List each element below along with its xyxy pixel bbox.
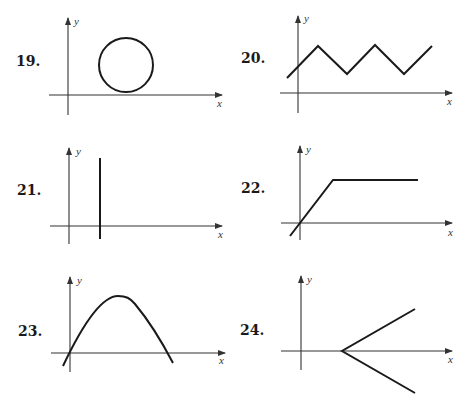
y-axis-label: y: [305, 143, 311, 155]
figure-number: 24.: [240, 322, 264, 338]
x-axis-label: x: [216, 97, 222, 109]
arch-curve: [63, 296, 173, 366]
figure-number: 20.: [241, 50, 265, 66]
figure-24: 24. y x: [240, 273, 453, 393]
figure-22: 22. y x: [241, 143, 453, 240]
x-axis-label: x: [218, 354, 224, 366]
y-axis-label: y: [303, 12, 309, 24]
graph-exercises: 19. y x 20. y x 21. y x 22. y x 23. y: [0, 0, 469, 403]
figure-23: 23. y x: [18, 274, 225, 372]
zigzag-curve: [287, 45, 432, 78]
figure-19: 19. y x: [16, 15, 222, 115]
x-axis-label: x: [217, 228, 223, 240]
figure-21: 21. y x: [17, 145, 223, 244]
x-axis-label: x: [447, 226, 453, 238]
y-axis-label: y: [76, 274, 82, 286]
y-axis-label: y: [75, 145, 81, 157]
ramp-curve: [290, 180, 418, 236]
figure-number: 22.: [241, 180, 265, 196]
figure-number: 21.: [17, 182, 41, 198]
x-axis-label: x: [447, 353, 453, 365]
x-axis-label: x: [446, 95, 452, 107]
figure-number: 23.: [18, 323, 42, 339]
figure-20: 20. y x: [241, 12, 452, 113]
circle-curve: [99, 38, 153, 92]
y-axis-label: y: [306, 273, 312, 285]
y-axis-label: y: [73, 15, 79, 27]
figure-number: 19.: [16, 53, 40, 69]
